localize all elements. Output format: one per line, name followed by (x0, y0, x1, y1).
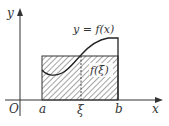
point-xi-label: ξ (77, 103, 85, 117)
diagram-canvas: y x O a ξ b y = f(x) f(ξ) (0, 0, 169, 126)
mean-value-diagram: y x O a ξ b y = f(x) f(ξ) (0, 0, 169, 126)
rect-height-label: f(ξ) (89, 64, 109, 77)
point-b-label: b (115, 102, 123, 116)
origin-label: O (9, 102, 19, 116)
x-axis-label: x (152, 102, 159, 116)
point-a-label: a (39, 102, 46, 116)
curve-label: y = f(x) (72, 23, 114, 36)
hatched-rectangle (42, 56, 118, 100)
y-axis-arrow-icon (17, 8, 23, 16)
y-axis-label: y (6, 6, 14, 20)
